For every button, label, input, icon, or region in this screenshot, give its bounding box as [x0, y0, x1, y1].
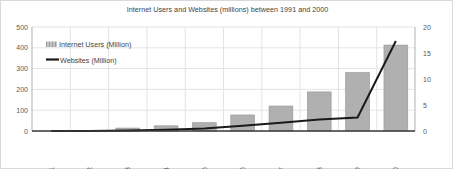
legend-label-websites: Websites (Million) — [60, 56, 117, 65]
y2-tick-0: 0 — [423, 128, 427, 135]
x-tick-1999: 1999 — [354, 167, 361, 169]
x-tick-1993: 1993 — [124, 167, 131, 169]
bar-1997 — [269, 106, 293, 131]
x-axis-ticks: 1991199219931994199519961997199819992000 — [48, 167, 400, 169]
chart-container: Internet Users and Websites (millions) b… — [0, 0, 453, 169]
y-axis-left-ticks: 0100200300400500 — [16, 24, 28, 135]
x-tick-2000: 2000 — [392, 167, 399, 169]
x-tick-1995: 1995 — [201, 167, 208, 169]
y-tick-300: 300 — [16, 65, 28, 72]
y2-tick-20: 20 — [423, 24, 431, 31]
x-tick-1992: 1992 — [86, 167, 93, 169]
bar-1996 — [231, 115, 255, 131]
bar-1998 — [307, 92, 331, 131]
legend-swatch-bar — [46, 42, 57, 48]
y2-tick-15: 15 — [423, 50, 431, 57]
chart-legend: Internet Users (Million) Websites (Milli… — [46, 40, 131, 65]
x-tick-1998: 1998 — [316, 167, 323, 169]
y-tick-0: 0 — [24, 128, 28, 135]
chart-plot: 0100200300400500 05101520 19911992199319… — [1, 1, 453, 169]
y-tick-200: 200 — [16, 86, 28, 93]
x-tick-1997: 1997 — [278, 167, 285, 169]
y2-tick-10: 10 — [423, 76, 431, 83]
y-axis-right-ticks: 05101520 — [423, 24, 431, 135]
x-tick-1996: 1996 — [239, 167, 246, 169]
legend-label-internet-users: Internet Users (Million) — [59, 40, 131, 49]
y-tick-500: 500 — [16, 24, 28, 31]
x-tick-1994: 1994 — [163, 167, 170, 169]
y-tick-400: 400 — [16, 44, 28, 51]
x-tick-1991: 1991 — [48, 167, 55, 169]
y2-tick-5: 5 — [423, 102, 427, 109]
y-tick-100: 100 — [16, 107, 28, 114]
